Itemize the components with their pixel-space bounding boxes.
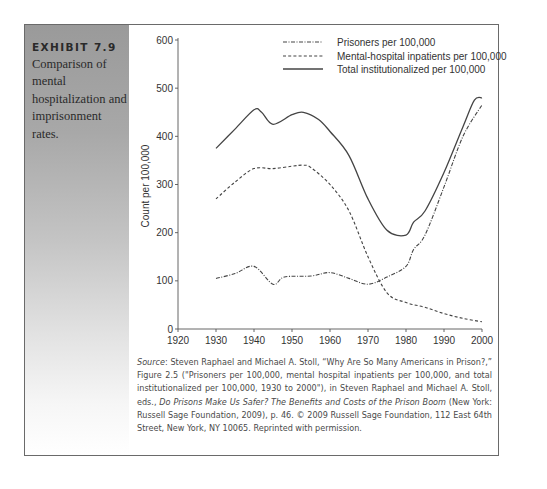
y-tick-label: 400: [156, 131, 173, 142]
line-chart: 0100200300400500600192019301940195019601…: [0, 0, 547, 489]
series-line-1: [216, 165, 482, 322]
x-tick-label: 1970: [357, 335, 380, 346]
y-tick-label: 300: [156, 179, 173, 190]
legend-label: Total institutionalized per 100,000: [337, 64, 486, 75]
chart-legend: Prisoners per 100,000Mental-hospital inp…: [283, 37, 507, 75]
x-tick-label: 1980: [395, 335, 418, 346]
series-line-2: [216, 97, 482, 235]
x-tick-label: 1930: [205, 335, 228, 346]
series-line-0: [216, 105, 482, 284]
chart-series: [216, 97, 482, 321]
x-tick-label: 2000: [471, 335, 494, 346]
y-tick-label: 100: [156, 275, 173, 286]
legend-label: Prisoners per 100,000: [337, 37, 436, 48]
x-tick-label: 1950: [281, 335, 304, 346]
y-axis-label: Count per 100,000: [140, 144, 151, 227]
x-tick-label: 1920: [167, 335, 190, 346]
y-tick-label: 0: [167, 324, 173, 335]
y-tick-label: 200: [156, 227, 173, 238]
x-tick-label: 1990: [433, 335, 456, 346]
x-tick-label: 1940: [243, 335, 266, 346]
legend-label: Mental-hospital inpatients per 100,000: [337, 51, 507, 62]
y-tick-label: 600: [156, 35, 173, 46]
x-tick-label: 1960: [319, 335, 342, 346]
y-tick-label: 500: [156, 83, 173, 94]
